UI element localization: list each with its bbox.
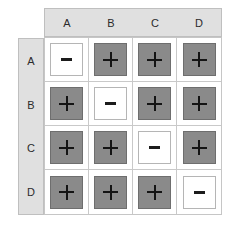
plus-icon (59, 96, 74, 111)
row-label-band: A B C D (18, 38, 44, 215)
matrix-cell-b-a (50, 87, 83, 120)
matrix-cell-b-d (183, 87, 216, 120)
matrix-grid-body (44, 37, 222, 215)
matrix-slot-b-c (133, 82, 177, 126)
minus-icon (149, 146, 160, 149)
matrix-slot-b-d (177, 82, 221, 126)
matrix-cell-b-b (94, 87, 127, 120)
matrix-cell-c-a (50, 131, 83, 164)
matrix-slot-a-a (45, 38, 89, 82)
minus-icon (194, 191, 205, 194)
row-label-b: B (19, 83, 43, 127)
matrix-slot-a-b (89, 38, 133, 82)
row-label-a: A (19, 39, 43, 83)
matrix-figure: A B C D A B C D (0, 0, 234, 228)
column-header-c: C (133, 9, 177, 36)
matrix-cell-a-c (138, 43, 171, 76)
plus-icon (192, 96, 207, 111)
plus-icon (147, 96, 162, 111)
matrix-slot-c-a (45, 126, 89, 170)
matrix-slot-d-d (177, 170, 221, 214)
matrix-slot-a-c (133, 38, 177, 82)
matrix-slot-d-a (45, 170, 89, 214)
matrix-cell-a-b (94, 43, 127, 76)
plus-icon (59, 140, 74, 155)
plus-icon (192, 52, 207, 67)
column-header-a: A (45, 9, 89, 36)
minus-icon (61, 58, 72, 61)
matrix-cell-c-d (183, 131, 216, 164)
column-header-d: D (177, 9, 221, 36)
matrix-slot-b-b (89, 82, 133, 126)
matrix-cell-c-b (94, 131, 127, 164)
column-header-b: B (89, 9, 133, 36)
plus-icon (147, 185, 162, 200)
plus-icon (103, 52, 118, 67)
minus-icon (105, 102, 116, 105)
matrix-cell-c-c (138, 131, 171, 164)
matrix-cell-d-b (94, 176, 127, 209)
matrix-slot-c-b (89, 126, 133, 170)
matrix-slot-a-d (177, 38, 221, 82)
column-header-band: A B C D (44, 8, 222, 37)
plus-icon (192, 140, 207, 155)
matrix-cell-d-c (138, 176, 171, 209)
matrix-slot-d-c (133, 170, 177, 214)
matrix-cell-a-d (183, 43, 216, 76)
matrix-slot-b-a (45, 82, 89, 126)
plus-icon (59, 185, 74, 200)
matrix-slot-d-b (89, 170, 133, 214)
matrix-cell-a-a (50, 43, 83, 76)
plus-icon (103, 140, 118, 155)
plus-icon (147, 52, 162, 67)
matrix-slot-c-c (133, 126, 177, 170)
row-label-c: C (19, 127, 43, 171)
plus-icon (103, 185, 118, 200)
matrix-slot-c-d (177, 126, 221, 170)
row-label-d: D (19, 170, 43, 214)
matrix-cell-b-c (138, 87, 171, 120)
matrix-cell-d-d (183, 176, 216, 209)
matrix-cell-d-a (50, 176, 83, 209)
